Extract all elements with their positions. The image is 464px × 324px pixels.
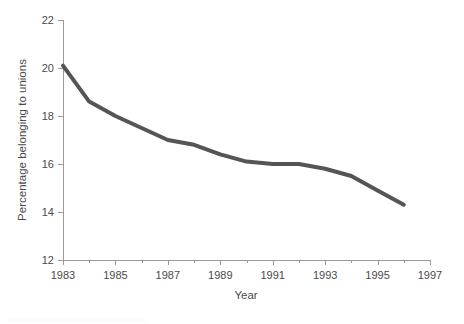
line-chart: 1214161820221983198519871989199119931995… [0,0,464,324]
x-tick-label: 1987 [156,269,180,281]
x-tick-label: 1985 [103,269,127,281]
y-tick-label: 16 [42,158,54,170]
tick-label-group: 1214161820221983198519871989199119931995… [42,14,442,281]
y-tick-label: 20 [42,62,54,74]
x-tick-label: 1989 [208,269,232,281]
x-tick-label: 1993 [313,269,337,281]
x-tick-label: 1997 [418,269,442,281]
y-tick-label: 18 [42,110,54,122]
y-tick-label: 12 [42,254,54,266]
data-series-group [63,66,404,205]
data-line-percentage-belonging-to-unions [63,66,404,205]
x-tick-label: 1991 [260,269,284,281]
chart-container: 1214161820221983198519871989199119931995… [0,0,464,324]
x-tick-label: 1983 [51,269,75,281]
x-tick-label: 1995 [365,269,389,281]
y-tick-label: 14 [42,206,54,218]
page-edge-artifact [8,319,148,322]
y-axis-title: Percentage belonging to unions [16,59,28,221]
x-axis-title: Year [234,289,257,301]
y-tick-label: 22 [42,14,54,26]
axis-group [58,20,431,265]
